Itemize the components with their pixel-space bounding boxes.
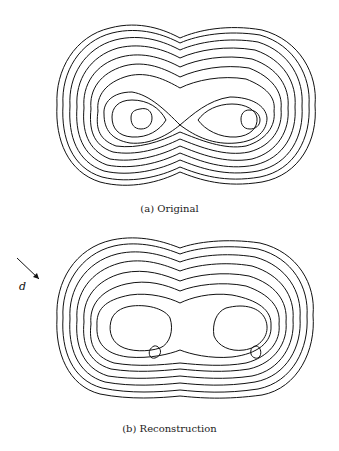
panel-original: (a) Original bbox=[0, 0, 339, 230]
contour-plot-original bbox=[0, 0, 339, 230]
caption-original: (a) Original bbox=[0, 203, 339, 214]
direction-label: d bbox=[19, 280, 26, 293]
caption-reconstruction: (b) Reconstruction bbox=[0, 423, 339, 434]
contour-plot-reconstruction bbox=[0, 230, 339, 451]
direction-arrow-icon bbox=[17, 258, 39, 279]
panel-reconstruction: d (b) Reconstruction bbox=[0, 230, 339, 451]
